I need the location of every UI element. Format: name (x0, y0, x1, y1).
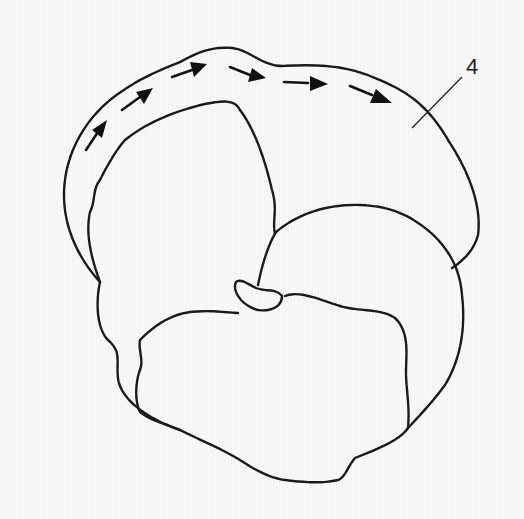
arrow-icon-6 (350, 86, 392, 103)
right-round-lobe (258, 205, 463, 428)
diagram-canvas: 4 (0, 0, 524, 519)
label-4: 4 (466, 56, 478, 78)
arrow-icon-1 (86, 120, 107, 150)
arrow-icon-4 (230, 67, 266, 82)
lower-front-lobe (136, 294, 408, 482)
arrow-icon-5 (284, 76, 328, 91)
flow-arrows (86, 62, 392, 150)
inner-left-lobe (88, 102, 275, 430)
outer-contour (64, 48, 479, 282)
diagram-svg (0, 0, 524, 519)
arrow-icon-2 (122, 88, 153, 110)
